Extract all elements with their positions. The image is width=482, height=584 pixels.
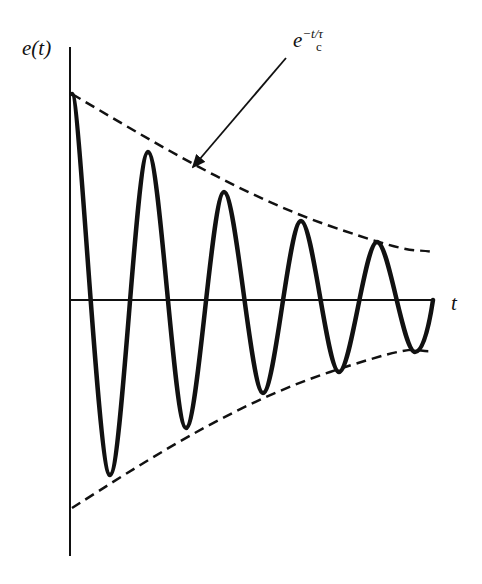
damped-oscillation-figure: e(t) t e−t/τc <box>0 0 482 584</box>
envelope-base: e <box>293 28 302 52</box>
plot-canvas <box>0 0 482 584</box>
x-axis-label: t <box>451 291 457 316</box>
y-axis-label: e(t) <box>22 36 51 61</box>
envelope-subscript: c <box>316 39 322 54</box>
annotation-arrow <box>193 58 286 167</box>
envelope-annotation-label: e−t/τc <box>293 28 329 53</box>
upper-envelope <box>72 94 433 252</box>
damped-oscillation-curve <box>72 94 433 475</box>
